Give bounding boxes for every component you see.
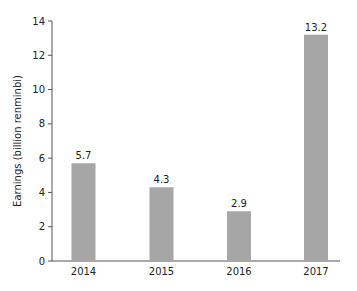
y-axis-label: Earnings (billion renminbi): [12, 75, 23, 207]
bar-2015: [150, 187, 174, 261]
x-axis: 2014201520162017: [52, 261, 340, 277]
y-tick-label: 14: [32, 16, 45, 27]
bar-2014: [72, 163, 96, 261]
x-tick-label: 2017: [303, 266, 328, 277]
bar-2016: [227, 211, 251, 261]
y-tick-label: 4: [39, 187, 45, 198]
x-tick-label: 2014: [71, 266, 96, 277]
y-axis-title: Earnings (billion renminbi): [12, 75, 23, 207]
bar-value-label: 13.2: [305, 22, 327, 33]
y-tick-label: 8: [39, 118, 45, 129]
bar-value-label: 2.9: [231, 198, 247, 209]
y-tick-label: 6: [39, 153, 45, 164]
x-tick-label: 2015: [149, 266, 174, 277]
bar-value-label: 5.7: [76, 150, 92, 161]
bar-value-label: 4.3: [154, 174, 170, 185]
bar-2017: [304, 35, 328, 261]
y-tick-label: 2: [39, 221, 45, 232]
y-tick-label: 0: [39, 256, 45, 267]
earnings-bar-chart: Earnings (billion renminbi) 02468101214 …: [0, 0, 357, 291]
bars: 5.74.32.913.2: [72, 22, 329, 261]
x-tick-label: 2016: [226, 266, 251, 277]
y-tick-label: 12: [32, 50, 45, 61]
y-axis: 02468101214: [32, 16, 52, 267]
y-tick-label: 10: [32, 84, 45, 95]
